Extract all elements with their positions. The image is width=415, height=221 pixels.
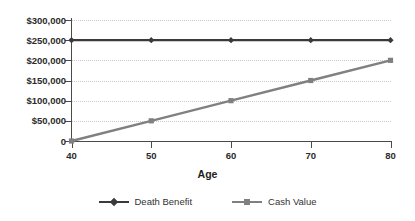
legend-swatch-cash-value xyxy=(232,197,262,206)
legend-label: Cash Value xyxy=(268,196,316,207)
data-point xyxy=(68,37,74,43)
data-point xyxy=(308,78,313,83)
line-chart: $300,000 $250,000 $200,000 $150,000 $100… xyxy=(0,0,415,221)
legend-swatch-death-benefit xyxy=(99,197,129,206)
series-layer xyxy=(0,0,415,221)
data-point xyxy=(69,138,74,143)
legend-label: Death Benefit xyxy=(135,196,193,207)
data-point xyxy=(228,37,234,43)
legend-item-cash-value[interactable]: Cash Value xyxy=(232,196,316,207)
data-point xyxy=(388,58,393,63)
legend-item-death-benefit[interactable]: Death Benefit xyxy=(99,196,193,207)
data-point xyxy=(387,37,393,43)
data-point xyxy=(308,37,314,43)
data-point xyxy=(149,118,154,123)
data-point xyxy=(228,98,233,103)
data-point xyxy=(148,37,154,43)
chart-legend: Death Benefit Cash Value xyxy=(0,196,415,207)
